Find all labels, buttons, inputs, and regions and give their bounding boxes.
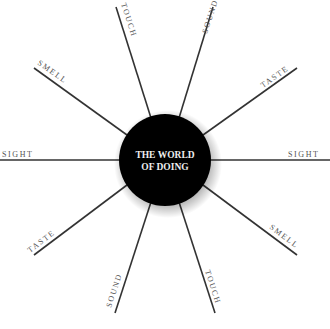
spoke-label: SIGHT bbox=[288, 150, 320, 159]
spoke-label: TOUCH bbox=[119, 2, 139, 38]
spoke-line bbox=[34, 68, 127, 135]
center-circle bbox=[119, 114, 211, 206]
spoke-line bbox=[115, 202, 151, 313]
spoke-label: SOUND bbox=[200, 0, 220, 35]
spoke-touch: TOUCH bbox=[116, 2, 151, 118]
spoke-line bbox=[203, 185, 297, 255]
spoke-sight: SIGHT bbox=[0, 150, 120, 160]
spoke-sound: SOUND bbox=[104, 202, 151, 313]
spoke-smell: SMELL bbox=[203, 185, 301, 255]
center-title-line2: OF DOING bbox=[141, 162, 189, 172]
spoke-taste: TASTE bbox=[26, 185, 127, 255]
spoke-sight: SIGHT bbox=[210, 150, 330, 160]
center-title-line1: THE WORLD bbox=[135, 150, 194, 160]
spoke-line bbox=[34, 185, 127, 255]
senses-diagram: TOUCHSOUNDTASTESIGHTSMELLTOUCHSOUNDTASTE… bbox=[0, 0, 330, 329]
spoke-smell: SMELL bbox=[34, 58, 127, 135]
spoke-label: SIGHT bbox=[2, 150, 34, 159]
spoke-touch: TOUCH bbox=[179, 202, 223, 313]
spoke-line bbox=[203, 68, 297, 135]
spoke-taste: TASTE bbox=[203, 64, 297, 135]
spoke-line bbox=[179, 202, 215, 313]
spoke-label: SOUND bbox=[104, 272, 124, 309]
spoke-sound: SOUND bbox=[179, 0, 220, 118]
